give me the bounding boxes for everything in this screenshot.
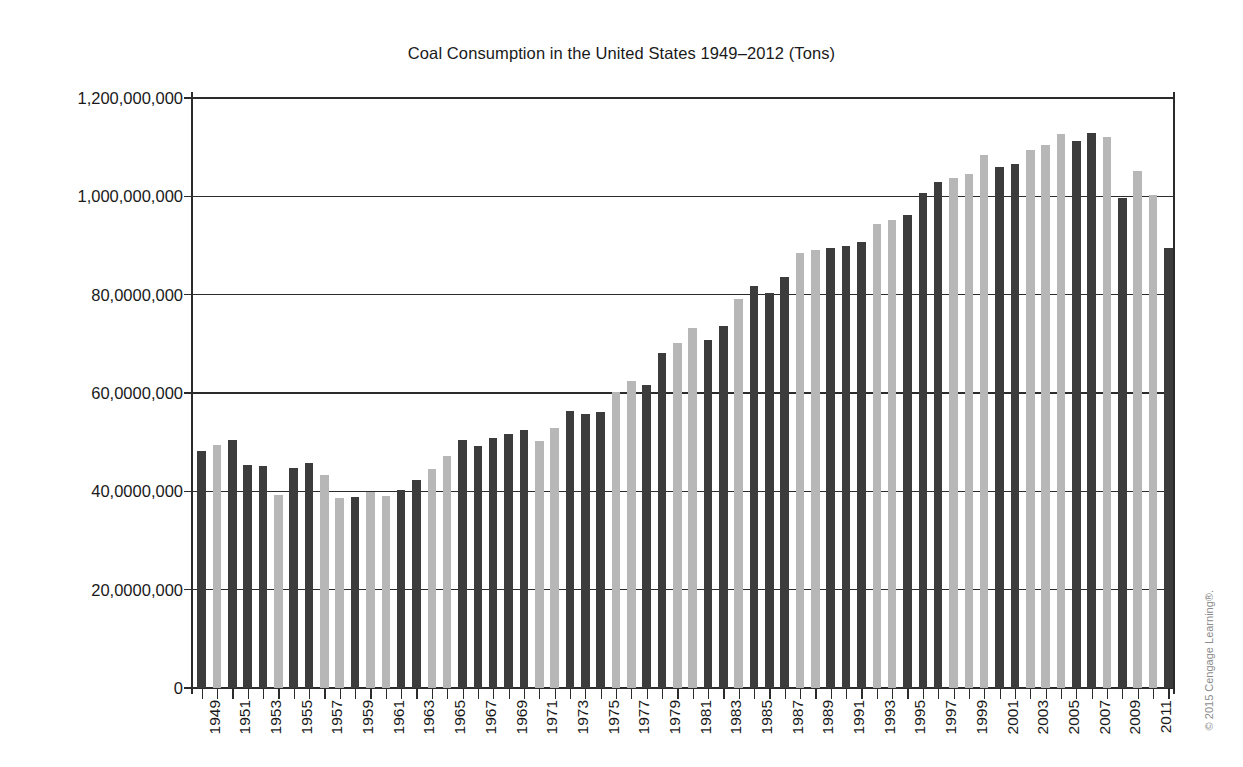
x-tick-mark — [631, 688, 632, 699]
x-tick-label: 1993 — [882, 700, 898, 734]
x-tick-mark — [570, 688, 571, 699]
x-tick-mark — [294, 688, 295, 699]
bar — [1011, 164, 1020, 688]
x-tick-mark — [800, 688, 801, 699]
bar — [458, 440, 467, 688]
bar — [259, 466, 268, 688]
x-tick-mark — [324, 688, 325, 699]
bar — [1133, 171, 1142, 688]
x-tick-mark — [1107, 688, 1108, 699]
bar — [934, 182, 943, 688]
bar — [612, 392, 621, 688]
bar — [980, 155, 989, 688]
copyright-notice: © 2015 Cengage Learning®. — [1203, 590, 1215, 730]
x-tick-mark — [754, 688, 755, 699]
x-tick-mark — [984, 688, 985, 699]
x-tick-mark — [938, 688, 939, 699]
x-tick-label: 1971 — [544, 700, 560, 734]
x-tick-label: 1977 — [636, 700, 652, 734]
x-tick-label: 1985 — [759, 700, 775, 734]
x-tick-mark — [1046, 688, 1047, 699]
x-tick-label: 2009 — [1127, 700, 1143, 734]
bar — [965, 174, 974, 688]
x-tick-mark — [278, 688, 279, 699]
x-tick-mark — [601, 688, 602, 699]
bar — [520, 430, 529, 688]
bar — [673, 343, 682, 688]
x-tick-label: 1991 — [851, 700, 867, 734]
bar — [642, 385, 651, 688]
bar — [474, 446, 483, 688]
x-tick-label: 2003 — [1035, 700, 1051, 734]
x-tick-mark — [416, 688, 417, 699]
bar — [780, 277, 789, 688]
x-tick-mark — [401, 688, 402, 699]
bar — [289, 468, 298, 688]
x-tick-label: 1955 — [299, 700, 315, 734]
bar — [504, 434, 513, 688]
bar — [228, 440, 237, 688]
x-tick-mark — [232, 688, 233, 699]
bar — [535, 441, 544, 688]
x-tick-label: 1963 — [421, 700, 437, 734]
chart-figure: Coal Consumption in the United States 19… — [0, 0, 1243, 767]
bar — [796, 253, 805, 688]
bar — [765, 293, 774, 688]
bar — [596, 412, 605, 688]
bar — [688, 328, 697, 688]
y-tick-mark — [184, 196, 192, 197]
bar — [428, 469, 437, 688]
x-tick-label: 1953 — [268, 700, 284, 734]
bar — [627, 381, 636, 688]
x-tick-label: 1989 — [820, 700, 836, 734]
bar — [197, 451, 206, 688]
y-tick-mark — [184, 687, 192, 688]
x-tick-label: 1969 — [514, 700, 530, 734]
bar — [1118, 198, 1127, 688]
x-tick-mark — [739, 688, 740, 699]
bar — [811, 250, 820, 688]
bar — [1057, 134, 1066, 688]
x-tick-mark — [539, 688, 540, 699]
y-tick-label: 1,000,000,000 — [0, 187, 183, 206]
x-tick-mark — [1000, 688, 1001, 699]
bar — [949, 178, 958, 688]
x-tick-label: 1995 — [912, 700, 928, 734]
x-tick-label: 1997 — [943, 700, 959, 734]
bar — [550, 428, 559, 688]
bar — [903, 215, 912, 688]
y-tick-label: 0 — [0, 679, 183, 698]
x-tick-mark — [647, 688, 648, 699]
x-tick-mark — [923, 688, 924, 699]
x-tick-mark — [693, 688, 694, 699]
x-axis-labels: 1949195119531955195719591961196319651967… — [192, 700, 1174, 766]
x-tick-label: 1961 — [391, 700, 407, 734]
bar — [335, 498, 344, 688]
x-tick-mark — [785, 688, 786, 699]
bar — [397, 490, 406, 688]
x-tick-mark — [1076, 688, 1077, 699]
x-tick-mark — [478, 688, 479, 699]
x-tick-mark — [248, 688, 249, 699]
bar — [704, 340, 713, 688]
x-tick-mark — [708, 688, 709, 699]
bar — [919, 193, 928, 688]
bar — [826, 248, 835, 688]
bar — [1041, 145, 1050, 688]
bar — [581, 414, 590, 688]
x-tick-label: 2001 — [1005, 700, 1021, 734]
bar — [1164, 248, 1173, 688]
y-tick-mark — [184, 491, 192, 492]
x-tick-label: 1949 — [207, 700, 223, 734]
y-tick-mark — [184, 97, 192, 98]
y-tick-mark — [184, 589, 192, 590]
y-tick-label: 1,200,000,000 — [0, 89, 183, 108]
x-tick-label: 1999 — [974, 700, 990, 734]
x-tick-label: 1957 — [329, 700, 345, 734]
x-tick-label: 1967 — [483, 700, 499, 734]
bar — [305, 463, 314, 688]
x-tick-mark — [1138, 688, 1139, 699]
x-tick-mark — [1153, 688, 1154, 699]
x-tick-label: 1973 — [575, 700, 591, 734]
x-tick-label: 1987 — [790, 700, 806, 734]
